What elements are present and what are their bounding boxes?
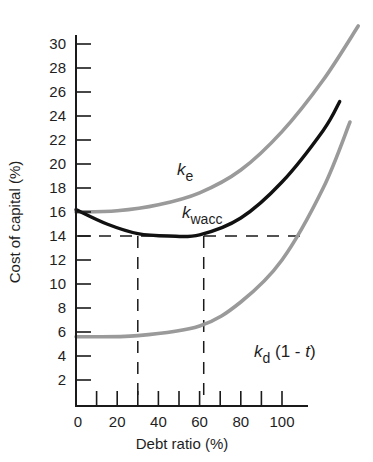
y-tick-label: 12 [49, 251, 66, 268]
y-tick-label: 18 [49, 179, 66, 196]
curve-label-ke: ke [177, 160, 194, 184]
curve-labels: kekwacckd (1 - t) [177, 160, 316, 366]
curves [76, 26, 358, 337]
x-tick-label: 0 [74, 413, 82, 430]
y-tick-label: 30 [49, 35, 66, 52]
y-tick-label: 20 [49, 155, 66, 172]
x-ticks: 020406080100 [74, 391, 295, 430]
y-tick-label: 24 [49, 107, 66, 124]
y-tick-label: 16 [49, 203, 66, 220]
dashed-guides [78, 236, 307, 404]
y-tick-label: 10 [49, 275, 66, 292]
y-tick-label: 2 [58, 371, 66, 388]
x-tick-label: 40 [150, 413, 167, 430]
y-tick-label: 6 [58, 323, 66, 340]
x-tick-label: 20 [109, 413, 126, 430]
y-tick-label: 22 [49, 131, 66, 148]
curve-label-kd: kd (1 - t) [254, 342, 316, 366]
curve-label-kwacc: kwacc [182, 203, 222, 227]
x-axis-title: Debt ratio (%) [136, 435, 229, 452]
curve-ke [76, 26, 358, 212]
y-tick-label: 8 [58, 299, 66, 316]
x-tick-label: 80 [232, 413, 249, 430]
x-tick-label: 60 [191, 413, 208, 430]
y-tick-label: 4 [58, 347, 66, 364]
cost-of-capital-chart: 24681012141618202224262830 020406080100 … [0, 0, 373, 462]
y-tick-label: 26 [49, 83, 66, 100]
x-tick-label: 100 [269, 413, 294, 430]
y-axis-title: Cost of capital (%) [6, 161, 23, 284]
y-tick-label: 14 [49, 227, 66, 244]
y-tick-label: 28 [49, 59, 66, 76]
